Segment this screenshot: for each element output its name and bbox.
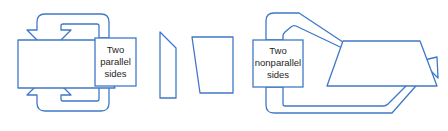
- parallel-label-line2: parallel: [100, 56, 131, 67]
- nonparallel-label-line2: nonparallel: [255, 57, 301, 68]
- nonparallel-label-line1: Two: [269, 45, 286, 56]
- trapezoid-vertical-right-side: [192, 37, 233, 93]
- diagram-canvas: Two parallel sides Two nonparallel sides: [0, 0, 448, 131]
- trapezoid-properties-diagram: Two parallel sides Two nonparallel sides: [0, 0, 448, 131]
- nonparallel-label-line3: sides: [267, 69, 289, 80]
- narrow-quadrilateral: [160, 32, 176, 98]
- trapezoid-nonparallel-sides: [327, 41, 437, 86]
- parallel-label-line1: Two: [107, 44, 124, 55]
- parallel-label-line3: sides: [104, 68, 126, 79]
